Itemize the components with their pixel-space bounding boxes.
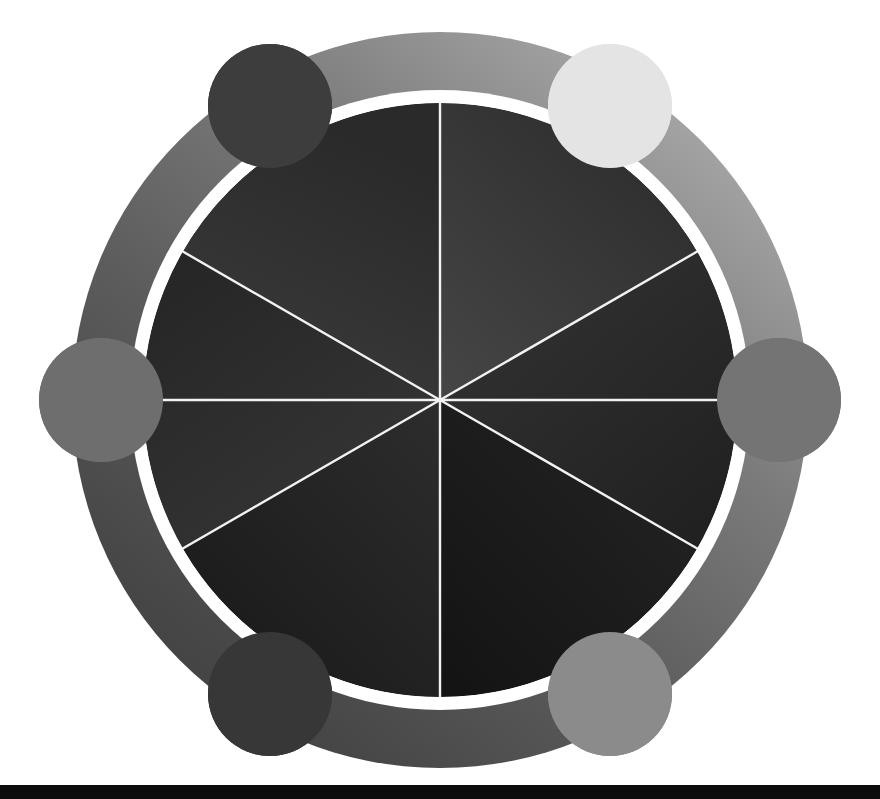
node-top-right-overlay[interactable]	[548, 44, 672, 168]
node-top-left-overlay[interactable]	[208, 44, 332, 168]
node-bottom-left-overlay[interactable]	[208, 632, 332, 756]
bottom-bar	[0, 785, 880, 799]
hexagonal-node-wheel	[0, 0, 880, 799]
node-bottom-right-overlay[interactable]	[548, 632, 672, 756]
wheel-canvas	[0, 0, 880, 799]
node-left-overlay[interactable]	[39, 338, 163, 462]
node-right-overlay[interactable]	[717, 338, 841, 462]
